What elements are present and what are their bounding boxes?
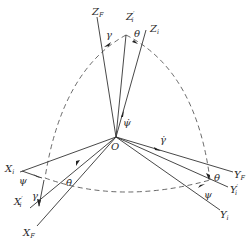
theta-dot-arrow-icon [76,160,80,166]
label-gamma-dot: γ̇ [160,134,166,145]
label-psi-y: ψ [204,189,212,200]
frame-rotation-diagram: ZF Z′i Zi Xi X′i XF YF Y′i Yi O γ θ ψ̇ γ… [0,0,248,238]
label-psi-x: ψ [19,175,27,186]
dashed-arc-left [45,35,126,178]
label-origin: O [111,141,119,152]
label-Yi: Yi [220,209,229,222]
label-theta-dot: θ̇ [66,177,72,188]
label-Zi: Zi [149,23,159,36]
axis-Zi [116,30,146,137]
label-theta-top: θ [134,28,140,39]
gamma-arc-x-segment [39,180,44,206]
label-gamma-top: γ [106,29,112,40]
label-theta-y: θ [214,172,220,183]
label-gamma-x: γ [32,190,38,201]
gamma-arc-arrow-icon [104,42,111,47]
label-psi-dot: ψ̇ [123,117,131,128]
axis-XF [37,137,116,226]
label-ZF: ZF [91,6,104,19]
axis-Yi-prime [116,137,228,187]
label-Xi: Xi [4,163,14,176]
theta-arc-arrow-icon [132,40,138,44]
label-XF: XF [22,227,35,238]
label-Xi-prime: X′i [13,195,23,209]
axis-Xi [20,137,116,172]
label-Yi-prime: Y′i [230,183,239,197]
psi-arc-arrow-y-icon [198,184,205,188]
axis-Xi-prime [30,137,116,208]
label-YF: YF [234,169,246,182]
label-Zi-prime: Z′i [125,10,135,24]
axis-YF [116,137,233,172]
